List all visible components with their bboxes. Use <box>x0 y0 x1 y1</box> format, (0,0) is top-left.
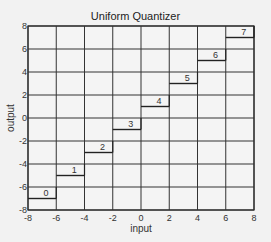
step-level-label: 5 <box>185 73 190 83</box>
step-level-label: 4 <box>157 96 162 106</box>
x-tick-label: 8 <box>251 213 256 223</box>
y-tick-label: -6 <box>19 182 27 192</box>
y-tick-label: 0 <box>22 113 27 123</box>
x-axis-label: input <box>130 223 152 234</box>
y-tick-label: -8 <box>19 205 27 215</box>
x-tick-label: -2 <box>109 213 117 223</box>
y-tick-label: -2 <box>19 136 27 146</box>
step-level-label: 6 <box>213 50 218 60</box>
x-tick-label: -4 <box>80 213 88 223</box>
x-tick-label: 2 <box>167 213 172 223</box>
x-tick-label: 4 <box>195 213 200 223</box>
step-level-label: 2 <box>100 142 105 152</box>
x-tick-label: -6 <box>52 213 60 223</box>
step-level-label: 7 <box>241 27 246 37</box>
x-tick-label: 6 <box>223 213 228 223</box>
x-tick-label: 0 <box>138 213 143 223</box>
quantizer-chart: -8-6-4-202468-8-6-4-20246801234567inputo… <box>0 0 271 242</box>
y-tick-label: -4 <box>19 159 27 169</box>
y-tick-label: 2 <box>22 90 27 100</box>
y-tick-label: 8 <box>22 21 27 31</box>
y-axis-label: output <box>5 104 16 132</box>
y-tick-label: 4 <box>22 67 27 77</box>
y-tick-label: 6 <box>22 44 27 54</box>
step-level-label: 1 <box>72 165 77 175</box>
step-level-label: 0 <box>44 188 49 198</box>
step-level-label: 3 <box>128 119 133 129</box>
